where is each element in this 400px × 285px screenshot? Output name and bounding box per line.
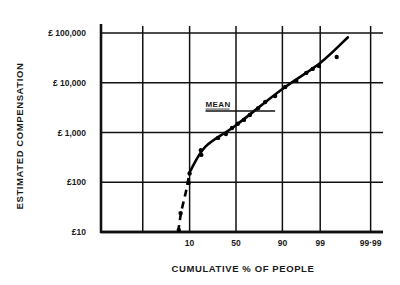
grid [100, 24, 383, 233]
data-point [178, 211, 182, 215]
x-tick-label: 99 [315, 238, 325, 248]
x-tick-label: 10 [185, 238, 195, 248]
data-point [263, 100, 267, 104]
data-point [283, 85, 287, 89]
data-points [177, 55, 339, 232]
y-tick-label: £ 100,000 [48, 28, 86, 38]
data-point [199, 148, 203, 152]
data-point [187, 171, 191, 175]
mean-label: MEAN [206, 100, 231, 109]
data-point [242, 118, 246, 122]
data-point [294, 79, 298, 83]
data-point [256, 106, 260, 110]
data-point [317, 64, 321, 68]
data-point [311, 67, 315, 71]
x-tick-label: 50 [231, 238, 241, 248]
x-tick-label: 90 [278, 238, 288, 248]
data-point [273, 94, 277, 98]
y-tick-label: £10 [72, 227, 86, 237]
y-tick-label: £ 1,000 [58, 128, 87, 138]
curves [178, 37, 348, 232]
data-point [236, 122, 240, 126]
data-point [224, 132, 228, 136]
data-point [248, 113, 252, 117]
y-tick-labels: £10£100£ 1,000£ 10,000£ 100,000 [48, 28, 86, 237]
y-tick-label: £ 10,000 [53, 78, 86, 88]
data-point [304, 71, 308, 75]
data-point [186, 181, 190, 185]
x-axis-label: CUMULATIVE % OF PEOPLE [172, 263, 315, 274]
x-tick-label: 99·99 [360, 238, 382, 248]
x-tick-labels: 1050909999·99 [185, 238, 382, 248]
y-tick-label: £100 [67, 177, 86, 187]
data-point [335, 55, 339, 59]
data-point [199, 153, 203, 157]
data-point [177, 228, 181, 232]
y-axis-label: ESTIMATED COMPENSATION [14, 63, 25, 210]
data-point [216, 136, 220, 140]
data-point [230, 126, 234, 130]
chart-canvas: £10£100£ 1,000£ 10,000£ 100,000 10509099… [0, 0, 400, 285]
